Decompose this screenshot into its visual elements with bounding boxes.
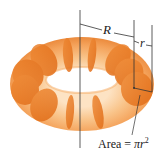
torus-diagram: R r Area = πr2 [0,0,166,156]
major-radius-dimension: R [80,22,134,37]
minor-radius-dimension: r [134,36,152,50]
major-radius-label: R [102,22,111,37]
area-label: Area = πr2 [98,136,149,151]
minor-radius-label: r [140,36,145,50]
